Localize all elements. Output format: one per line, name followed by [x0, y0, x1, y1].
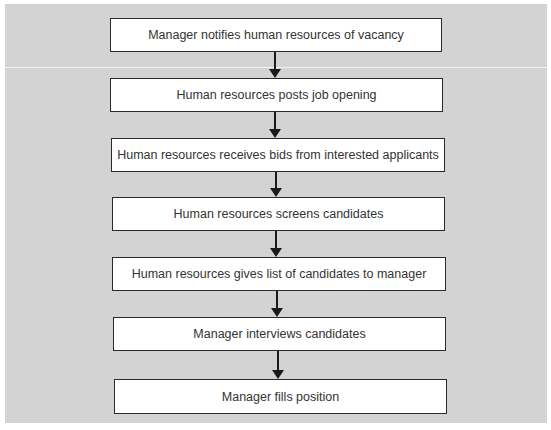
step-box-7: Manager fills position [114, 379, 447, 414]
step-box-5: Human resources gives list of candidates… [112, 257, 446, 291]
arrow-down-icon [270, 231, 282, 257]
step-box-6: Manager interviews candidates [113, 317, 446, 351]
step-label-2: Human resources posts job opening [176, 88, 376, 102]
arrow-down-icon [271, 291, 283, 317]
step-label-7: Manager fills position [222, 390, 339, 404]
step-box-1: Manager notifies human resources of vaca… [110, 18, 442, 52]
step-box-3: Human resources receives bids from inter… [111, 138, 445, 172]
step-label-3: Human resources receives bids from inter… [117, 148, 439, 162]
step-box-4: Human resources screens candidates [112, 197, 445, 231]
step-label-1: Manager notifies human resources of vaca… [148, 28, 404, 42]
step-label-6: Manager interviews candidates [193, 327, 365, 341]
arrow-down-icon [269, 52, 281, 78]
arrow-down-icon [272, 351, 284, 379]
arrow-down-icon [270, 172, 282, 197]
step-box-2: Human resources posts job opening [110, 78, 443, 112]
step-label-5: Human resources gives list of candidates… [132, 267, 427, 281]
step-label-4: Human resources screens candidates [174, 207, 384, 221]
arrow-down-icon [269, 112, 281, 138]
